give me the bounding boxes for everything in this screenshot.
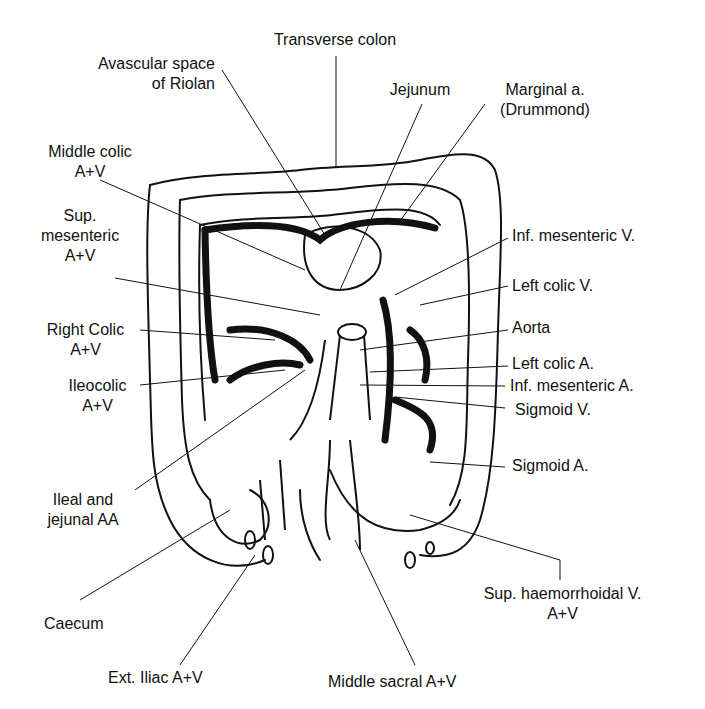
label-sup-mesenteric: Sup. mesenteric A+V [20,206,140,266]
label-middle-sacral: Middle sacral A+V [328,672,457,692]
label-inf-mesenteric-v: Inf. mesenteric V. [512,226,635,246]
label-left-colic-v: Left colic V. [512,276,593,296]
label-jejunum: Jejunum [370,80,470,100]
label-sup-haemorrhoidal: Sup. haemorrhoidal V. A+V [440,584,685,624]
label-aorta: Aorta [512,318,550,338]
label-right-colic: Right Colic A+V [28,320,143,360]
leader-inf-mesenteric-v [395,238,508,295]
label-sigmoid-v: Sigmoid V. [515,400,591,420]
aorta-section [338,324,366,340]
leader-marginal-a [400,104,485,221]
label-ext-iliac: Ext. Iliac A+V [108,668,203,688]
leader-aorta [360,330,508,350]
leader-sup-haemorrhoidal [410,515,560,580]
label-middle-colic: Middle colic A+V [20,142,160,182]
leader-left-colic-v [420,286,508,305]
label-left-colic-a: Left colic A. [512,354,594,374]
inf-mesenteric-vein [383,300,390,440]
marginal-artery [205,221,435,240]
label-caecum: Caecum [44,614,104,634]
label-ileocolic: Ileocolic A+V [50,376,145,416]
leader-ileal-jejunal [135,370,305,490]
leader-inf-mesenteric-a [360,385,505,386]
leader-avascular-space [222,70,325,235]
label-inf-mesenteric-a: Inf. mesenteric A. [510,376,634,396]
label-sigmoid-a: Sigmoid A. [512,456,588,476]
label-ileal-jejunal: Ileal and jejunal AA [28,490,138,530]
leader-sup-mesenteric [115,278,320,315]
leader-ext-iliac [180,555,255,665]
label-marginal-a: Marginal a. (Drummond) [480,80,610,120]
label-transverse-colon: Transverse colon [250,30,420,50]
leader-sigmoid-a [430,462,505,467]
label-avascular-space: Avascular space of Riolan [40,54,215,94]
